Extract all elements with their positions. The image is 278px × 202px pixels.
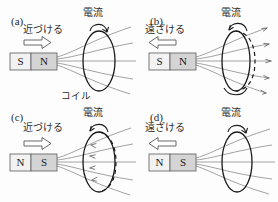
panel-c: (c) 近づける 電流 N S: [0, 101, 139, 202]
magnet-pole-right-a: N: [31, 56, 57, 67]
magnet-pole-left-a: S: [10, 56, 31, 67]
panel-label-a: (a): [11, 16, 23, 27]
current-arrow-c: [90, 124, 108, 132]
magnet-pole-left-d: N: [149, 157, 170, 168]
panel-b: (b) 遠ざける 電流 S N: [139, 0, 278, 101]
induction-figure: (a) 近づける 電流 S N: [0, 0, 278, 202]
magnet-pole-right-c: S: [31, 157, 57, 168]
current-label-b: 電流: [221, 8, 241, 18]
field-lines-a: [57, 27, 136, 94]
motion-arrow-b: [149, 37, 176, 49]
motion-label-c: 近づける: [23, 123, 63, 133]
magnet-pole-left-b: S: [149, 56, 170, 67]
field-lines-d: [196, 129, 275, 194]
current-label-d: 電流: [221, 108, 241, 118]
field-lines-c: [57, 128, 136, 195]
coil-caption: コイル: [61, 88, 91, 102]
motion-arrow-a: [24, 37, 51, 49]
motion-label-d: 遠ざける: [145, 123, 185, 133]
current-label-a: 電流: [83, 8, 103, 18]
motion-label-a: 近づける: [23, 25, 63, 35]
current-label-c: 電流: [83, 108, 103, 118]
magnet-pole-left-c: N: [10, 157, 31, 168]
magnet-pole-right-b: N: [170, 56, 196, 67]
magnet-pole-right-d: S: [170, 157, 196, 168]
panel-d: (d) 遠ざける 電流 N S: [139, 101, 278, 202]
motion-arrow-c: [24, 138, 51, 150]
panel-a: (a) 近づける 電流 S N: [0, 0, 139, 101]
motion-label-b: 遠ざける: [145, 25, 185, 35]
field-lines-b: [196, 28, 271, 93]
motion-arrow-d: [149, 138, 176, 150]
panel-label-c: (c): [11, 112, 23, 123]
